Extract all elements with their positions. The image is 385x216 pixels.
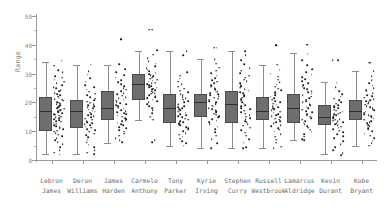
- y-tick-label: 10: [18, 128, 32, 135]
- x-tick-label-line: Williams: [67, 186, 97, 196]
- x-tick-label-line: Carmelo: [131, 176, 158, 186]
- data-point: [365, 111, 367, 113]
- x-tick-label-line: Russell: [251, 176, 285, 186]
- x-tick-label-kevin-durant: KevinDurant: [319, 176, 342, 195]
- data-point: [366, 105, 368, 107]
- data-point: [373, 118, 375, 120]
- x-tick-label-lebron-james: LebronJames: [40, 176, 63, 195]
- data-point: [371, 75, 373, 77]
- x-tick-label-line: Lebron: [40, 176, 63, 186]
- y-tick-mark: [32, 160, 36, 161]
- data-point: [369, 106, 371, 108]
- box-plot-group: [36, 16, 377, 160]
- x-tick-label-line: Kobe: [350, 176, 373, 186]
- x-tick-label-line: Tony: [164, 176, 187, 186]
- data-point: [369, 121, 371, 123]
- y-tick-label: 50: [18, 13, 32, 20]
- x-tick-label-lamarcus-aldridge: LamarcusAldridge: [284, 176, 314, 195]
- x-tick-label-line: Deron: [67, 176, 97, 186]
- data-point: [372, 140, 374, 142]
- x-tick-mark: [145, 160, 146, 164]
- x-tick-label-line: James: [40, 186, 63, 196]
- data-point: [371, 96, 373, 98]
- x-tick-label-line: Irving: [195, 186, 218, 196]
- data-point: [373, 87, 375, 89]
- x-tick-mark: [269, 160, 270, 164]
- x-tick-label-line: Curry: [224, 186, 251, 196]
- x-tick-label-line: Stephen: [224, 176, 251, 186]
- data-point: [371, 79, 373, 81]
- data-point: [371, 142, 373, 144]
- x-tick-label-line: Bryant: [350, 186, 373, 196]
- x-tick-label-kyrie-irving: KyrieIrving: [195, 176, 218, 195]
- x-tick-mark: [52, 160, 53, 164]
- x-tick-label-kobe-bryant: KobeBryant: [350, 176, 373, 195]
- plot-area: [36, 16, 377, 160]
- x-tick-label-line: Durant: [319, 186, 342, 196]
- data-point: [373, 110, 375, 112]
- x-tick-mark: [238, 160, 239, 164]
- x-tick-mark: [114, 160, 115, 164]
- data-point: [372, 93, 374, 95]
- whisker-cap-upper: [352, 71, 359, 72]
- x-tick-mark: [300, 160, 301, 164]
- x-axis-line: [34, 160, 377, 161]
- x-tick-label-carmelo-anthony: CarmeloAnthony: [131, 176, 158, 195]
- data-point: [363, 97, 365, 99]
- x-tick-label-line: James: [102, 176, 125, 186]
- data-point: [364, 133, 366, 135]
- data-point: [368, 145, 370, 147]
- x-tick-label-russell-westbrook: RussellWestbrook: [251, 176, 285, 195]
- data-point: [370, 120, 372, 122]
- box-plot-chart: Range 01020304050 LebronJamesDeronWillia…: [0, 0, 385, 216]
- data-point: [373, 137, 375, 139]
- y-tick-label: 30: [18, 70, 32, 77]
- x-tick-label-line: Anthony: [131, 186, 158, 196]
- data-point: [363, 113, 365, 115]
- x-tick-label-line: Harden: [102, 186, 125, 196]
- data-point: [370, 135, 372, 137]
- x-tick-mark: [176, 160, 177, 164]
- data-point: [372, 131, 374, 133]
- x-tick-label-line: Parker: [164, 186, 187, 196]
- x-tick-label-line: Kevin: [319, 176, 342, 186]
- x-tick-label-james-harden: JamesHarden: [102, 176, 125, 195]
- x-tick-mark: [331, 160, 332, 164]
- data-point: [366, 91, 368, 93]
- x-tick-label-line: Westbrook: [251, 186, 285, 196]
- median-line: [349, 111, 363, 112]
- data-point: [373, 70, 375, 72]
- data-point: [369, 99, 371, 101]
- box-iqr: [349, 100, 363, 120]
- data-point: [363, 119, 365, 121]
- data-point: [368, 114, 370, 116]
- x-tick-label-line: Lamarcus: [284, 176, 314, 186]
- y-tick-label: 40: [18, 41, 32, 48]
- x-tick-label-line: Kyrie: [195, 176, 218, 186]
- data-point: [367, 94, 369, 96]
- data-point: [368, 82, 370, 84]
- x-tick-mark: [362, 160, 363, 164]
- x-tick-label-deron-williams: DeronWilliams: [67, 176, 97, 195]
- x-tick-label-stephen-curry: StephenCurry: [224, 176, 251, 195]
- x-tick-mark: [83, 160, 84, 164]
- x-tick-label-line: Aldridge: [284, 186, 314, 196]
- whisker-cap-lower: [352, 146, 359, 147]
- data-point: [367, 129, 369, 131]
- data-point: [373, 98, 375, 100]
- y-tick-label: 0: [18, 157, 32, 164]
- x-tick-label-tony-parker: TonyParker: [164, 176, 187, 195]
- y-tick-label: 20: [18, 99, 32, 106]
- x-tick-mark: [207, 160, 208, 164]
- outlier-point: [368, 62, 370, 64]
